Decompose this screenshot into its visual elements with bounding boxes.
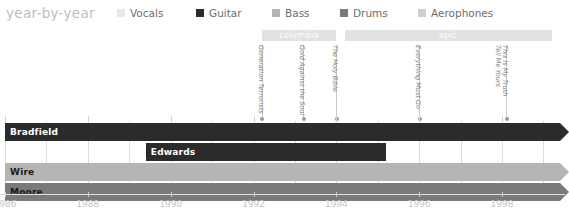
legend-label: Guitar [209,7,242,19]
axis-tick [88,192,89,197]
album-title: Everything Must Go [414,45,421,109]
page-title: year-by-year [6,5,95,21]
bar-arrow-icon [560,163,569,181]
album-dot-icon [505,117,509,121]
axis-label: 1994 [325,199,348,209]
album-title: Generation Terrorists [257,45,264,114]
member-label-wire: Wire [10,167,34,177]
bar-arrow-icon [560,183,569,201]
axis-tick [171,192,172,197]
axis-label: 1986 [0,199,16,209]
label-bar-text: columbia [279,31,319,40]
member-bar-edwards[interactable]: Edwards [146,143,386,161]
member-label-bradfield: Bradfield [10,127,58,137]
axis-tick [254,192,255,197]
legend-swatch-icon [272,9,280,17]
member-bar-wire[interactable]: Wire [5,163,560,181]
member-label-edwards: Edwards [151,147,196,157]
album-title: This Is My Truth [501,45,508,96]
label-bar-columbia: columbia [262,30,337,41]
axis-tick [502,192,503,197]
axis-label: 1990 [159,199,182,209]
album-title: Gold Against the Soul [298,45,305,115]
legend-label: Bass [285,7,310,19]
axis-tick [5,192,6,197]
member-label-moore: Moore [10,187,43,197]
album-title: The Holy Bible [331,45,338,92]
legend-label: Aerophones [431,7,493,19]
legend-swatch-icon [340,9,348,17]
album-dot-icon [260,117,264,121]
legend-swatch-icon [418,9,426,17]
legend-item-aerophones: Aerophones [418,7,493,19]
legend-item-bass: Bass [272,7,310,19]
legend-item-guitar: Guitar [196,7,242,19]
x-axis-line [0,194,565,195]
legend-label: Drums [353,7,388,19]
axis-label: 1996 [408,199,431,209]
legend-item-drums: Drums [340,7,388,19]
axis-label: 1998 [491,199,514,209]
legend-swatch-icon [117,9,125,17]
legend-label: Vocals [130,7,163,19]
bar-arrow-icon [560,123,569,141]
member-bar-bradfield[interactable]: Bradfield [5,123,560,141]
label-bar-epic: epic [345,30,552,41]
chart-header: year-by-year VocalsGuitarBassDrumsAeroph… [0,0,565,28]
axis-label: 1988 [76,199,99,209]
album-title: Tell Me Yours [494,45,501,87]
label-bar-text: epic [439,31,457,40]
axis-label: 1992 [242,199,265,209]
axis-tick [419,192,420,197]
album-dot-icon [302,117,306,121]
legend-swatch-icon [196,9,204,17]
timeline-plot: columbiaepic Generation TerroristsGold A… [0,28,565,214]
legend-item-vocals: Vocals [117,7,163,19]
axis-tick [336,192,337,197]
